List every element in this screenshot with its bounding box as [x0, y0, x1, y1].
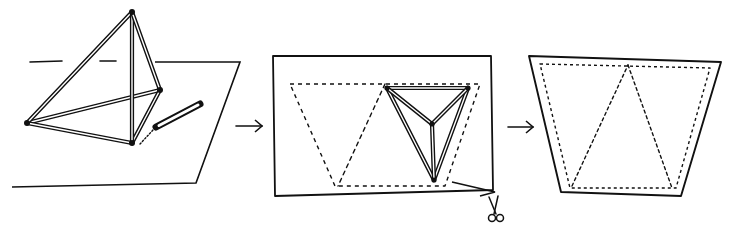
- tetra-joint: [129, 140, 135, 146]
- scissors-handle: [489, 215, 496, 222]
- step-arrows: [236, 120, 533, 133]
- cut-trapezoid-outline: [529, 56, 721, 196]
- tetra-strut-gap: [387, 88, 432, 124]
- tetra-joint: [429, 121, 434, 126]
- net-dashed-outline: [540, 64, 710, 188]
- step-2-traced-and-cut: [273, 56, 504, 222]
- step-1-tetrahedron-on-paper: [12, 9, 240, 187]
- net-fold-line: [628, 65, 672, 188]
- paper-back-edge: [30, 61, 62, 62]
- arrow-icon-step-1-to-2: [236, 120, 262, 132]
- scissors-blade: [494, 196, 498, 214]
- tetrahedron-net-diagram: [0, 0, 731, 238]
- scissors-icon: [489, 196, 504, 222]
- pencil-body: [159, 105, 198, 126]
- tetra-left-strut-gap: [27, 12, 132, 123]
- traced-fold-line: [338, 84, 385, 186]
- tetra-joint: [24, 120, 30, 126]
- diagram-canvas: [0, 0, 731, 238]
- arrow-icon-step-2-to-3: [508, 121, 533, 133]
- tetra-edge-gap: [387, 88, 434, 180]
- tetra-back-edge-gap: [27, 90, 160, 123]
- tetra-front-edge-gap: [27, 123, 132, 143]
- tetra-joint: [431, 177, 436, 182]
- cut-notch: [452, 182, 495, 196]
- net-fold-line: [572, 65, 628, 186]
- pencil-trace-line: [140, 130, 153, 144]
- tetra-rear-strut-gap: [132, 12, 160, 90]
- paper-sheet: [273, 56, 493, 196]
- tetra-joint: [465, 85, 470, 90]
- tetra-joint: [157, 87, 163, 93]
- paper-sheet: [12, 62, 240, 187]
- tetra-joint: [384, 85, 389, 90]
- step-3-trapezoid-net: [529, 56, 721, 196]
- tetra-joint: [129, 9, 135, 15]
- scissors-handle: [497, 215, 504, 222]
